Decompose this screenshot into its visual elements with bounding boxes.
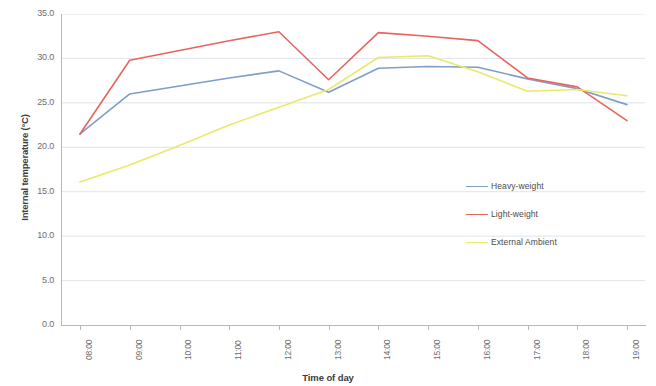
x-axis-tick-mark: [627, 325, 628, 330]
legend-color-swatch: [466, 214, 488, 215]
line-chart: Internal temperature (°C) 35.030.025.020…: [0, 0, 656, 386]
series-lines: [80, 32, 627, 182]
x-axis-tick-mark: [130, 325, 131, 330]
x-axis-tick-label: 17:00: [532, 340, 542, 360]
x-axis-tick-mark: [528, 325, 529, 330]
y-axis-tick-label: 35.0: [20, 8, 54, 18]
x-axis-tick-label: 14:00: [382, 340, 392, 360]
plot-area: [62, 14, 645, 325]
x-axis-title: Time of day: [0, 372, 656, 383]
y-axis-tick-label: 0.0: [20, 319, 54, 329]
legend-item[interactable]: Light-weight: [466, 200, 616, 228]
x-axis-tick-labels: 08:0009:0010:0011:0012:0013:0014:0015:00…: [62, 330, 645, 370]
legend-color-swatch: [466, 242, 488, 243]
x-axis-tick-label: 18:00: [581, 340, 591, 360]
legend-item-label: Light-weight: [491, 209, 538, 219]
legend-item-label: Heavy-weight: [491, 181, 544, 191]
legend-color-swatch: [466, 186, 488, 187]
series-line-external-ambient: [80, 56, 627, 182]
y-axis-tick-label: 15.0: [20, 186, 54, 196]
x-axis-tick-label: 12:00: [283, 340, 293, 360]
x-axis-tick-label: 08:00: [84, 340, 94, 360]
y-axis-tick-label: 5.0: [20, 275, 54, 285]
legend: Heavy-weightLight-weightExternal Ambient: [466, 172, 616, 256]
x-axis-tick-mark: [478, 325, 479, 330]
x-axis-tick-label: 09:00: [134, 340, 144, 360]
legend-item[interactable]: External Ambient: [466, 228, 616, 256]
x-axis-tick-mark: [279, 325, 280, 330]
y-axis-tick-label: 10.0: [20, 230, 54, 240]
x-axis-tick-label: 19:00: [631, 340, 641, 360]
legend-item-label: External Ambient: [491, 237, 557, 247]
x-axis-tick-label: 11:00: [233, 340, 243, 360]
y-axis-line: [61, 14, 62, 326]
x-axis-line: [61, 325, 646, 326]
plot-svg: [62, 14, 645, 325]
x-axis-tick-mark: [577, 325, 578, 330]
x-axis-tick-mark: [229, 325, 230, 330]
x-axis-tick-label: 16:00: [482, 340, 492, 360]
x-axis-tick-mark: [428, 325, 429, 330]
x-axis-tick-mark: [80, 325, 81, 330]
y-axis-tick-label: 20.0: [20, 141, 54, 151]
x-axis-tick-label: 15:00: [432, 340, 442, 360]
x-axis-tick-mark: [180, 325, 181, 330]
y-axis-tick-labels: 35.030.025.020.015.010.05.00.0: [14, 0, 54, 386]
series-line-heavy-weight: [80, 66, 627, 134]
x-axis-tick-mark: [378, 325, 379, 330]
legend-item[interactable]: Heavy-weight: [466, 172, 616, 200]
x-axis-tick-label: 13:00: [333, 340, 343, 360]
x-axis-tick-label: 10:00: [183, 340, 193, 360]
x-axis-tick-mark: [329, 325, 330, 330]
y-axis-tick-label: 30.0: [20, 52, 54, 62]
y-axis-tick-label: 25.0: [20, 97, 54, 107]
